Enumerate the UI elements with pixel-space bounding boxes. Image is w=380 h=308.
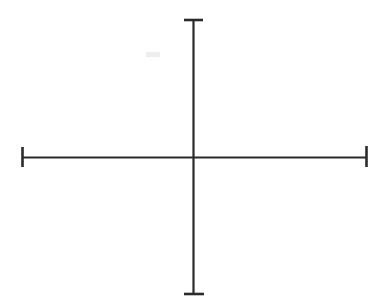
figure-background bbox=[0, 0, 380, 308]
figure-canvas: Blank coordinate axes cross bbox=[0, 0, 380, 308]
scan-smudge-artifact bbox=[146, 52, 160, 57]
axes-cross-svg bbox=[0, 0, 380, 308]
origin-point bbox=[193, 157, 194, 158]
